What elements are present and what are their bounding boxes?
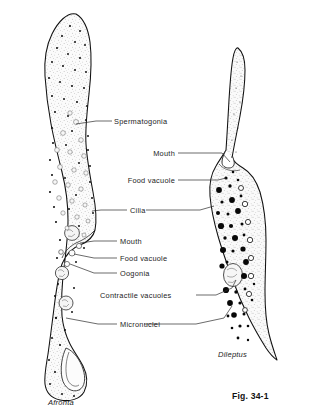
leader-oogonia [70,264,117,273]
leader-food-vacuole-afronta [74,254,117,258]
label-spermatogonia: Spermatogonia [114,118,167,125]
label-food-vacuole-dileptus: Food vacuole [128,177,175,184]
organism-dileptus [210,48,277,360]
label-food-vacuole-afronta: Food vacuole [120,255,167,262]
species-name-dileptus: Dileptus [218,351,247,359]
leader-cilia-left [92,210,127,211]
species-name-afronta: Afronta [48,399,74,407]
organism-afronta [45,14,96,401]
leader-micronuclei [66,318,117,324]
afronta-body-outline [45,14,96,401]
label-cilia: Cilia [130,207,146,214]
label-mouth-afronta: Mouth [120,238,142,245]
label-contractile-vacuoles: Contractile vacuoles [100,292,172,299]
dileptus-macronucleus [224,264,243,287]
label-mouth-dileptus: Mouth [153,150,175,157]
label-oogonia: Oogonia [120,270,150,277]
afronta-oral-vesicle [61,348,84,391]
figure-caption: Fig. 34-1 [232,392,269,401]
leader-cilia-right [146,206,214,210]
label-micronuclei: Micronuclei [120,321,160,328]
